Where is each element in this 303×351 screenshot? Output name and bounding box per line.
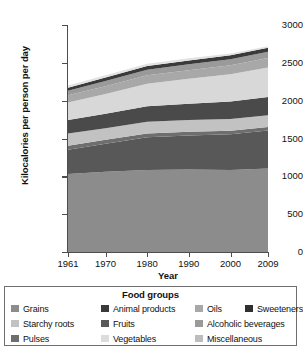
y-tick-label: 0 xyxy=(245,246,303,257)
legend-item[interactable]: Miscellaneous xyxy=(195,332,262,345)
legend-swatch-icon xyxy=(11,305,19,312)
legend-item-label: Animal products xyxy=(113,304,175,314)
y-tick-label: 1500 xyxy=(245,133,303,144)
y-axis-line xyxy=(67,25,68,253)
y-tick-mark xyxy=(62,25,67,26)
plot-area xyxy=(68,25,268,252)
x-tick-mark xyxy=(147,252,148,257)
x-tick-mark xyxy=(106,252,107,257)
y-tick-label: 2500 xyxy=(245,57,303,68)
legend-swatch-icon xyxy=(11,320,19,327)
y-tick-mark xyxy=(62,101,67,102)
legend-item-label: Grains xyxy=(23,304,49,314)
legend-item[interactable]: Fruits xyxy=(101,317,135,330)
y-tick-mark xyxy=(62,176,67,177)
legend-item-label: Starchy roots xyxy=(23,319,74,329)
legend-item-label: Miscellaneous xyxy=(207,334,262,344)
legend-item-label: Sweeteners xyxy=(257,304,303,314)
x-tick-mark xyxy=(231,252,232,257)
y-tick-label: 500 xyxy=(245,208,303,219)
y-tick-mark xyxy=(62,252,67,253)
legend-item-label: Vegetables xyxy=(113,334,156,344)
legend-item[interactable]: Oils xyxy=(195,302,222,315)
area-band-grains xyxy=(68,168,268,252)
x-tick-label: 2009 xyxy=(248,258,288,269)
y-tick-label: 2000 xyxy=(245,95,303,106)
y-tick-mark xyxy=(62,63,67,64)
x-tick-label: 1990 xyxy=(169,258,209,269)
y-tick-label: 3000 xyxy=(245,19,303,30)
x-tick-label: 1980 xyxy=(127,258,167,269)
area-series-group xyxy=(68,25,268,252)
legend-item[interactable]: Vegetables xyxy=(101,332,156,345)
y-tick-mark xyxy=(62,139,67,140)
legend-swatch-icon xyxy=(245,305,253,312)
stacked-area-chart: Kilocalories per person per day 05001000… xyxy=(0,0,303,282)
legend-item-label: Alcoholic beverages xyxy=(207,319,285,329)
x-tick-label: 2000 xyxy=(211,258,251,269)
x-axis-line xyxy=(67,252,268,253)
y-axis-label: Kilocalories per person per day xyxy=(19,16,30,216)
x-tick-mark xyxy=(189,252,190,257)
legend-item[interactable]: Pulses xyxy=(11,332,49,345)
legend-box: Food groups GrainsAnimal productsOilsSwe… xyxy=(4,286,297,346)
y-tick-mark xyxy=(62,214,67,215)
legend-swatch-icon xyxy=(195,335,203,342)
legend-item-label: Pulses xyxy=(23,334,49,344)
legend-title: Food groups xyxy=(5,289,296,300)
legend-item-label: Fruits xyxy=(113,319,135,329)
legend-item-label: Oils xyxy=(207,304,222,314)
x-axis-label: Year xyxy=(68,270,268,281)
chart-screenshot: Kilocalories per person per day 05001000… xyxy=(0,0,303,351)
x-tick-mark xyxy=(68,252,69,257)
legend-item[interactable]: Animal products xyxy=(101,302,175,315)
x-tick-mark xyxy=(268,252,269,257)
legend-swatch-icon xyxy=(101,305,109,312)
y-tick-label: 1000 xyxy=(245,170,303,181)
x-tick-label: 1970 xyxy=(86,258,126,269)
legend-item[interactable]: Starchy roots xyxy=(11,317,74,330)
legend-swatch-icon xyxy=(101,335,109,342)
legend-swatch-icon xyxy=(195,305,203,312)
legend-swatch-icon xyxy=(101,320,109,327)
legend-item[interactable]: Sweeteners xyxy=(245,302,303,315)
x-tick-label: 1961 xyxy=(48,258,88,269)
legend-item[interactable]: Grains xyxy=(11,302,49,315)
legend-swatch-icon xyxy=(195,320,203,327)
legend-item[interactable]: Alcoholic beverages xyxy=(195,317,285,330)
legend-swatch-icon xyxy=(11,335,19,342)
